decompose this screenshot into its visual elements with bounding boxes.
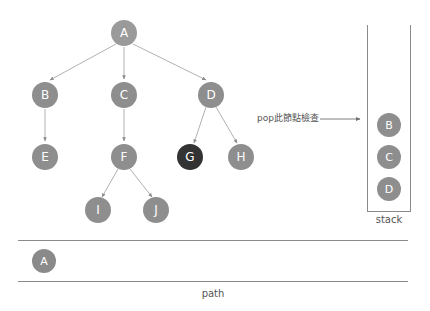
tree-node-f-label: F xyxy=(121,151,128,163)
tree-node-g[interactable]: G xyxy=(177,144,203,170)
tree-node-b[interactable]: B xyxy=(32,82,58,108)
path-container xyxy=(18,240,408,282)
path-item-a[interactable]: A xyxy=(32,249,56,273)
tree-node-h[interactable]: H xyxy=(228,144,254,170)
tree-node-j[interactable]: J xyxy=(143,197,169,223)
stack-item-b-label: B xyxy=(385,120,393,131)
pop-annotation-text: pop此節點檢查 xyxy=(257,114,319,123)
tree-edge-a-d xyxy=(133,44,206,80)
tree-edge-d-h xyxy=(216,107,237,143)
tree-node-c[interactable]: C xyxy=(111,82,137,108)
stack-item-b[interactable]: B xyxy=(377,113,401,137)
stack-item-c[interactable]: C xyxy=(377,145,401,169)
tree-node-a-label: A xyxy=(120,27,128,39)
tree-node-d[interactable]: D xyxy=(198,82,224,108)
tree-node-b-label: B xyxy=(41,89,49,101)
path-item-a-label: A xyxy=(40,256,48,267)
tree-node-e[interactable]: E xyxy=(32,144,58,170)
tree-node-i-label: I xyxy=(96,204,100,216)
tree-node-d-label: D xyxy=(206,89,215,101)
stack-item-d-label: D xyxy=(385,184,393,195)
tree-edge-f-i xyxy=(102,169,118,197)
tree-node-i[interactable]: I xyxy=(85,197,111,223)
tree-node-h-label: H xyxy=(236,151,245,163)
tree-node-a[interactable]: A xyxy=(111,20,137,46)
stack-label: stack xyxy=(367,214,411,225)
tree-node-f[interactable]: F xyxy=(111,144,137,170)
tree-edge-a-b xyxy=(50,44,116,80)
path-label: path xyxy=(18,288,408,299)
stack-item-c-label: C xyxy=(385,152,393,163)
tree-node-e-label: E xyxy=(41,151,49,163)
tree-edge-d-g xyxy=(194,107,206,143)
tree-node-j-label: J xyxy=(154,204,158,216)
stack-item-d[interactable]: D xyxy=(377,177,401,201)
tree-node-g-label: G xyxy=(185,151,194,163)
tree-edge-f-j xyxy=(130,169,152,197)
tree-node-c-label: C xyxy=(120,89,128,101)
tree-traversal-diagram: A B C D E F G H I J pop此節點檢查 B C D stack… xyxy=(0,0,430,311)
